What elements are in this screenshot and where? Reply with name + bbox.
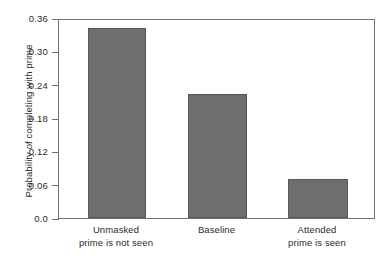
x-tick-label-line1: Attended [257,224,377,237]
y-tick-label: 0.06 [8,181,48,191]
x-tick-label-line2: prime is not seen [56,237,176,250]
y-tick-label: 0.24 [8,81,48,91]
y-tick-label: 0.30 [8,47,48,57]
y-tick-label: 0.36 [8,14,48,24]
x-tick-label: Attendedprime is seen [257,224,377,249]
bar-chart-figure: Probability of completing with prime 0.0… [0,0,392,259]
y-tick-label: 0.18 [8,114,48,124]
bar [288,179,348,218]
y-tick-label: 0.0 [8,214,48,224]
bar [88,28,146,218]
y-tick-label: 0.12 [8,147,48,157]
bar [188,94,247,218]
plot-area [58,19,375,219]
x-tick-label-line2: prime is seen [257,237,377,250]
